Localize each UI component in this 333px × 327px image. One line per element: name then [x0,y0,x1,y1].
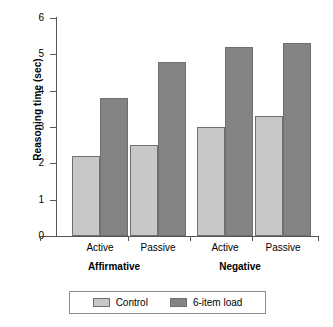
y-tick-label: 3 [14,122,44,132]
bar-control-passive-3 [255,116,283,236]
y-tick-label: 4 [14,86,44,96]
x-tick-mark [252,236,253,241]
y-tick-label: 5 [14,49,44,59]
legend-item-6-item-load: 6-item load [170,298,242,308]
x-tick-mark [128,236,129,241]
bar-6-item-load-active-0 [100,98,128,236]
legend-swatch-icon [170,298,187,307]
y-tick-label: 6 [14,13,44,23]
bar-6-item-load-passive-1 [158,62,186,236]
x-tick-mark [190,236,191,241]
bar-control-active-2 [197,127,225,236]
legend-label: Control [116,298,148,308]
bar-6-item-load-passive-3 [283,43,311,236]
group-label-affirmative: Affirmative [54,261,174,272]
y-tick-label: 1 [14,195,44,205]
chart-legend: Control6-item load [69,291,266,314]
bar-control-active-0 [72,156,100,236]
bar-chart: Reasoning time (sec) 6543210 ActivePassi… [0,0,333,327]
legend-label: 6-item load [193,298,242,308]
category-label-1: Passive [123,242,193,253]
y-tick-mark [50,236,56,237]
x-axis-line [40,236,319,237]
legend-swatch-icon [93,298,110,307]
category-label-3: Passive [248,242,318,253]
bar-6-item-load-active-2 [225,47,253,236]
y-tick-label: 2 [14,158,44,168]
x-tick-mark [40,236,41,241]
bar-control-passive-1 [130,145,158,236]
legend-item-control: Control [93,298,148,308]
group-label-negative: Negative [180,261,300,272]
plot-area [56,18,318,236]
x-tick-mark [318,236,319,241]
